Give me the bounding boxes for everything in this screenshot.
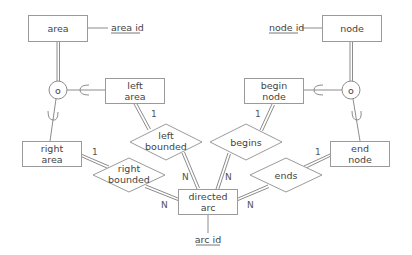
relationship-right-bounded[interactable]: right bounded xyxy=(93,158,165,192)
svg-text:area: area xyxy=(124,91,145,102)
left-bounded-to-arc-line xyxy=(182,152,200,189)
svg-text:o: o xyxy=(348,85,354,96)
ends-to-arc-line xyxy=(238,185,269,201)
entity-node[interactable]: node xyxy=(323,16,382,42)
er-diagram: o o area left area right area node begin… xyxy=(0,0,412,255)
cardinality-end-node: 1 xyxy=(315,147,321,157)
node-to-split-double-line xyxy=(350,42,353,81)
svg-text:node id: node id xyxy=(269,22,304,33)
area-to-split-double-line xyxy=(57,42,60,81)
cardinality-right-area: 1 xyxy=(92,147,98,157)
cardinality-left-area: 1 xyxy=(151,109,157,119)
svg-text:area id: area id xyxy=(111,22,144,33)
svg-text:end: end xyxy=(351,143,369,154)
svg-text:area: area xyxy=(47,23,68,34)
svg-text:arc id: arc id xyxy=(195,234,221,245)
svg-text:bounded: bounded xyxy=(108,174,150,185)
entity-area[interactable]: area xyxy=(29,16,88,42)
attribute-node-id[interactable]: node id xyxy=(269,22,304,33)
svg-text:right: right xyxy=(118,163,141,174)
area-specialization-circle: o xyxy=(49,81,67,99)
entity-right-area[interactable]: right area xyxy=(23,142,82,167)
entity-directed-arc[interactable]: directed arc xyxy=(179,190,238,215)
node-specialization-circle: o xyxy=(342,81,360,99)
attribute-arc-id[interactable]: arc id xyxy=(195,234,221,245)
cardinality-right-bounded-arc: N xyxy=(161,200,168,210)
svg-text:o: o xyxy=(55,85,61,96)
cardinality-left-bounded-arc: N xyxy=(182,172,189,182)
relationship-left-bounded[interactable]: left bounded xyxy=(130,124,202,160)
attribute-area-id[interactable]: area id xyxy=(111,22,144,33)
svg-text:directed: directed xyxy=(188,191,227,202)
svg-text:right: right xyxy=(41,143,64,154)
svg-text:bounded: bounded xyxy=(145,141,187,152)
svg-text:left: left xyxy=(158,130,174,141)
svg-text:area: area xyxy=(41,154,62,165)
entity-end-node[interactable]: end node xyxy=(331,142,390,167)
svg-text:arc: arc xyxy=(201,202,216,213)
svg-text:begin: begin xyxy=(261,80,288,91)
entity-begin-node[interactable]: begin node xyxy=(245,79,304,104)
begin-node-to-begins-line xyxy=(260,104,275,131)
cardinality-ends-arc: N xyxy=(247,200,254,210)
cardinality-begins-arc: N xyxy=(225,172,232,182)
right-bounded-to-arc-line xyxy=(145,185,178,201)
svg-text:left: left xyxy=(127,80,143,91)
svg-text:begins: begins xyxy=(230,137,262,148)
entity-left-area[interactable]: left area xyxy=(106,79,165,104)
svg-text:node: node xyxy=(262,91,286,102)
cardinality-begin-node: 1 xyxy=(255,109,261,119)
svg-text:node: node xyxy=(340,23,364,34)
relationship-begins[interactable]: begins xyxy=(210,124,282,160)
svg-text:node: node xyxy=(348,154,372,165)
left-area-to-left-bounded-line xyxy=(134,103,151,130)
svg-text:ends: ends xyxy=(275,170,298,181)
